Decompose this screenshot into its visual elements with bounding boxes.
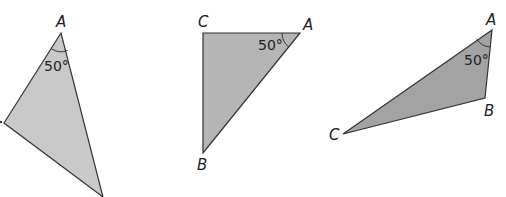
triangle-3-vertex-c-label: C xyxy=(329,126,340,144)
triangle-1-angle-label: 50° xyxy=(44,58,69,74)
triangles-diagram: A 50° C A B 50° A B C 50° xyxy=(0,0,506,197)
triangle-2-vertex-b-label: B xyxy=(197,156,207,174)
triangle-3-vertex-b-label: B xyxy=(484,102,494,120)
triangle-2-shape xyxy=(203,33,300,153)
triangle-2-vertex-a-label: A xyxy=(302,16,313,34)
triangle-1-vertex-c-marker xyxy=(0,121,2,123)
triangle-3-vertex-a-label: A xyxy=(485,11,496,29)
triangle-2-angle-label: 50° xyxy=(258,37,283,53)
triangle-3-shape xyxy=(343,30,492,134)
triangle-1: A 50° xyxy=(0,13,103,197)
triangle-2-vertex-c-label: C xyxy=(198,13,209,31)
triangle-3-angle-label: 50° xyxy=(464,52,489,68)
triangle-3: A B C 50° xyxy=(329,11,496,144)
triangle-2: C A B 50° xyxy=(197,13,313,174)
triangle-1-vertex-a-label: A xyxy=(55,13,66,31)
